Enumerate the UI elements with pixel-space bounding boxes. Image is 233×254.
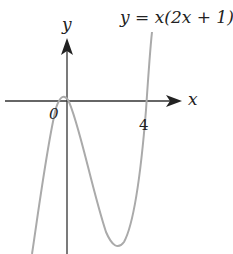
x-axis-label: x [188,91,198,108]
y-axis-label: y [62,16,72,33]
origin-label: 0 [49,107,59,122]
equation-label: y = x(2x + 1)(x − [120,9,233,26]
cubic-graph [0,0,233,254]
tick-label-4: 4 [139,118,149,133]
cubic-curve [32,32,152,254]
